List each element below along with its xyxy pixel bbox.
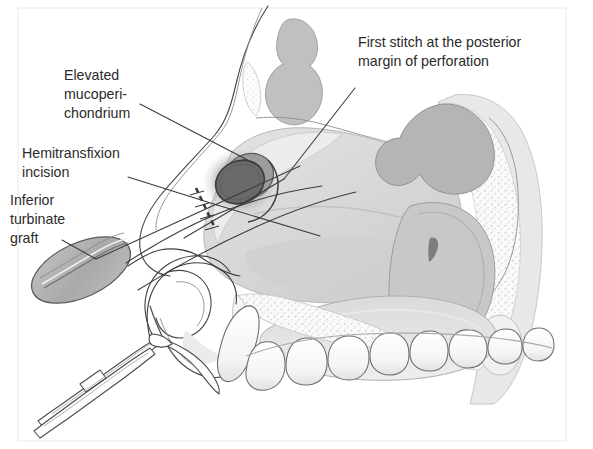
label-hemitransfixion-incision: Hemitransfixion incision — [22, 145, 124, 180]
label-line: mucoperi- — [64, 86, 127, 102]
label-line: Hemitransfixion — [22, 145, 120, 161]
label-line: Inferior — [10, 192, 54, 208]
label-line: First stitch at the posterior — [358, 34, 521, 50]
inferior-turbinate-graft-body — [22, 223, 141, 317]
label-line: margin of perforation — [358, 53, 489, 69]
nasal-bone — [243, 62, 261, 116]
nasal-base-inner — [176, 282, 204, 326]
label-line: chondrium — [64, 105, 130, 121]
label-elevated-mucoperichondrium: Elevated mucoperi- chondrium — [64, 67, 131, 121]
needle-holder — [34, 334, 172, 438]
label-line: graft — [10, 230, 38, 246]
label-line: turbinate — [10, 211, 65, 227]
label-first-stitch-posterior-margin: First stitch at the posterior margin of … — [358, 34, 525, 69]
label-line: Elevated — [64, 67, 119, 83]
label-inferior-turbinate-graft: Inferior turbinate graft — [10, 192, 69, 246]
illustration-canvas: Elevated mucoperi- chondrium First stitc… — [0, 0, 593, 449]
illustration-figure: Elevated mucoperi- chondrium First stitc… — [0, 0, 593, 449]
sphenoid-sinus — [376, 104, 495, 194]
frontal-sinus — [265, 19, 322, 125]
label-line: incision — [22, 164, 69, 180]
